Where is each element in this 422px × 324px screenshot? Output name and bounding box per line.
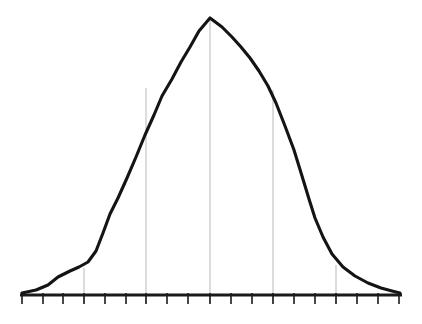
bell-curve-figure: Symmetric bell-shaped normal distributio… bbox=[0, 0, 422, 324]
chart-canvas bbox=[0, 0, 422, 324]
